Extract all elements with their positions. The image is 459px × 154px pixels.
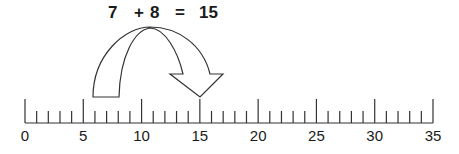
tick-label: 30 <box>366 127 383 144</box>
tick-label: 10 <box>133 127 150 144</box>
tick-label: 5 <box>79 127 87 144</box>
jump-arrow-icon <box>93 27 223 97</box>
tick-label: 25 <box>308 127 325 144</box>
number-line <box>25 99 433 123</box>
tick-label: 35 <box>425 127 442 144</box>
number-line-diagram <box>0 0 459 154</box>
tick-label: 0 <box>21 127 29 144</box>
tick-label: 20 <box>250 127 267 144</box>
tick-label: 15 <box>192 127 209 144</box>
